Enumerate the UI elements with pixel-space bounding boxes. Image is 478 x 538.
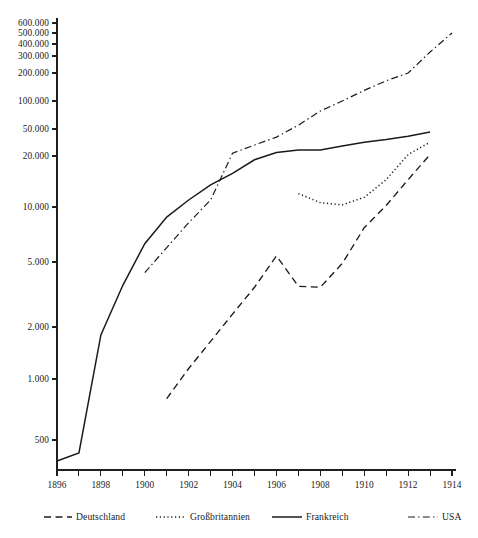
x-axis-tick-label: 1902 bbox=[179, 480, 198, 490]
series-line-deutschland bbox=[167, 155, 430, 399]
y-axis-tick-label: 400.000 bbox=[18, 39, 49, 49]
legend-item-usa: USA bbox=[408, 511, 462, 522]
series-line-frankreich bbox=[57, 132, 430, 461]
series-line-usa bbox=[145, 33, 452, 273]
y-axis-tick-label: 5.000 bbox=[28, 257, 50, 267]
chart-legend: DeutschlandGroßbritannienFrankreichUSA bbox=[44, 511, 462, 522]
y-axis-tick-label: 300.000 bbox=[18, 51, 49, 61]
y-axis-tick-label: 50.000 bbox=[23, 124, 49, 134]
x-axis-tick-label: 1904 bbox=[223, 480, 242, 490]
y-axis-tick-label: 100.000 bbox=[18, 96, 49, 106]
legend-item-gro-britannien: Großbritannien bbox=[156, 511, 250, 522]
legend-item-frankreich: Frankreich bbox=[272, 511, 349, 522]
x-axis-tick-label: 1896 bbox=[48, 480, 67, 490]
legend-label: Frankreich bbox=[306, 511, 349, 522]
y-axis-tick-label: 2.000 bbox=[28, 322, 50, 332]
y-axis: 5001.0002.0005.00010.00020.00050.000100.… bbox=[18, 18, 57, 470]
legend-label: USA bbox=[442, 511, 462, 522]
legend-label: Deutschland bbox=[76, 511, 125, 522]
y-axis-tick-label: 600.000 bbox=[18, 18, 49, 28]
y-axis-tick-label: 10.000 bbox=[23, 202, 49, 212]
y-axis-tick-label: 20.000 bbox=[23, 151, 49, 161]
line-chart: 5001.0002.0005.00010.00020.00050.000100.… bbox=[0, 0, 478, 538]
y-axis-tick-label: 200.000 bbox=[18, 68, 49, 78]
series-lines bbox=[57, 33, 452, 461]
chart-container: 5001.0002.0005.00010.00020.00050.000100.… bbox=[0, 0, 478, 538]
x-axis-tick-label: 1900 bbox=[135, 480, 154, 490]
y-axis-tick-label: 500.000 bbox=[18, 28, 49, 38]
legend-label: Großbritannien bbox=[190, 511, 250, 522]
y-axis-tick-label: 500 bbox=[35, 435, 49, 445]
x-axis-tick-label: 1906 bbox=[267, 480, 286, 490]
x-axis-tick-label: 1908 bbox=[311, 480, 330, 490]
x-axis-tick-label: 1912 bbox=[399, 480, 418, 490]
series-line-gro-britannien bbox=[298, 142, 430, 205]
y-axis-tick-label: 1.000 bbox=[28, 374, 50, 384]
x-axis-tick-label: 1914 bbox=[443, 480, 462, 490]
legend-item-deutschland: Deutschland bbox=[44, 511, 125, 522]
x-axis-tick-label: 1910 bbox=[355, 480, 374, 490]
x-axis: 1896189819001902190419061908191019121914 bbox=[48, 470, 462, 490]
x-axis-tick-label: 1898 bbox=[91, 480, 110, 490]
